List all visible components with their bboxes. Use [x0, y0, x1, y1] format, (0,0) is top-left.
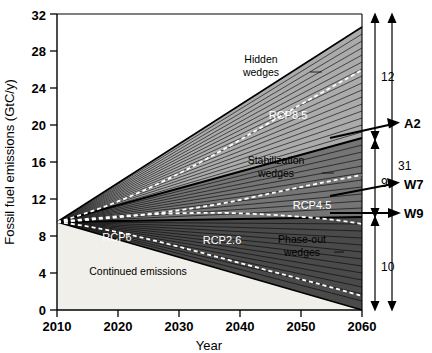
x-tick-2060: 2060 [348, 319, 377, 334]
y-axis-title: Fossil fuel emissions (GtC/y) [2, 79, 17, 244]
y-tick-4: 4 [39, 266, 47, 281]
hidden-wedges-label-line2: wedges [242, 66, 279, 78]
measure-12 [371, 14, 378, 140]
scenario-label-a2: A2 [404, 116, 421, 131]
measure-label-31: 31 [398, 159, 412, 173]
x-tick-2020: 2020 [104, 319, 133, 334]
y-tick-28: 28 [32, 44, 46, 59]
y-axis-labels: 0 4 8 12 16 20 24 28 32 [32, 8, 47, 318]
measure-label-12: 12 [381, 70, 395, 84]
y-tick-24: 24 [32, 81, 47, 96]
scenario-label-w9: W9 [404, 206, 424, 221]
y-tick-32: 32 [32, 8, 46, 23]
y-tick-0: 0 [39, 303, 46, 318]
emissions-wedge-chart: Hidden wedges Stabilization wedges Phase… [0, 0, 432, 353]
phase-out-wedges-label-line2: wedges [283, 246, 320, 258]
x-axis-ticks [57, 310, 362, 317]
x-tick-2040: 2040 [226, 319, 255, 334]
measure-label-10: 10 [381, 260, 395, 274]
x-tick-2050: 2050 [287, 319, 316, 334]
measure-10 [371, 217, 378, 310]
y-tick-12: 12 [32, 192, 46, 207]
scenario-label-w7: W7 [404, 177, 424, 192]
measure-9 [371, 140, 378, 217]
y-tick-16: 16 [32, 155, 46, 170]
hidden-wedges-label-line1: Hidden [244, 53, 277, 65]
y-tick-20: 20 [32, 118, 46, 133]
stabilization-wedges-label-line1: Stabilization [248, 154, 305, 166]
x-tick-2030: 2030 [165, 319, 194, 334]
stabilization-wedges-label-line2: wedges [257, 167, 294, 179]
rcp26-label: RCP2.6 [203, 234, 242, 246]
phase-out-wedges-label-line1: Phase-out [278, 233, 326, 245]
x-axis-labels: 2010 2020 2030 2040 2050 2060 [43, 319, 377, 334]
x-axis-title: Year [196, 338, 223, 353]
rcp6-label: RCP6 [102, 231, 131, 243]
measure-numbers: 12 9 10 31 [381, 70, 412, 274]
y-tick-8: 8 [39, 229, 46, 244]
x-tick-2010: 2010 [43, 319, 72, 334]
measure-label-9: 9 [381, 176, 388, 190]
continued-emissions-label: Continued emissions [89, 265, 186, 277]
rcp85-label: RCP8.5 [269, 109, 308, 121]
chart-figure: Hidden wedges Stabilization wedges Phase… [0, 0, 432, 353]
rcp45-label: RCP4.5 [293, 199, 332, 211]
y-axis-ticks [50, 14, 57, 310]
